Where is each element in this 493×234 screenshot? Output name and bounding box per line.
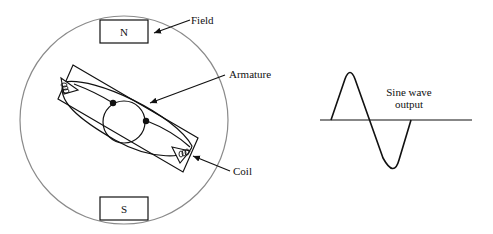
- armature-callout: Armature: [150, 68, 271, 103]
- sine-wave-output: Sine wave output: [320, 73, 472, 169]
- output-label-line2: output: [395, 98, 423, 110]
- coil-lower-right: [172, 147, 190, 163]
- generator-diagram: N S Field Armature: [0, 0, 493, 234]
- brush-contact-bottom: [143, 118, 149, 124]
- generator-housing: [20, 16, 228, 224]
- coil-upper-left: [61, 78, 78, 94]
- output-label-line1: Sine wave: [386, 86, 432, 98]
- field-label: Field: [191, 14, 214, 26]
- brush-contact-top: [110, 100, 116, 106]
- north-pole-label: N: [120, 26, 128, 38]
- coil-callout: Coil: [193, 156, 252, 177]
- commutator-ring: [103, 101, 145, 143]
- coil-label: Coil: [233, 165, 252, 177]
- north-pole: N: [100, 20, 148, 43]
- armature-label: Armature: [229, 68, 271, 80]
- south-pole: S: [100, 197, 148, 220]
- south-pole-label: S: [121, 203, 127, 215]
